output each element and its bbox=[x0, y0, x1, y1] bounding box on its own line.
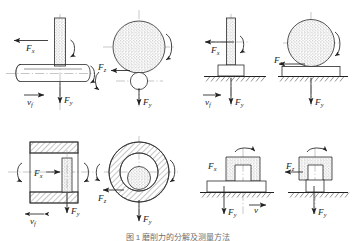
grinding-force-figure: Fx Fy vf Fz Fy bbox=[0, 0, 356, 241]
workpiece-block bbox=[306, 180, 324, 192]
figure-caption: 图 1 磨削力的分解及测量方法 bbox=[126, 232, 231, 241]
table-block bbox=[282, 67, 340, 77]
workpiece-block bbox=[207, 181, 266, 192]
grinding-wheel-circle bbox=[288, 20, 335, 67]
figure-root: Fx Fy vf Fz Fy bbox=[0, 0, 356, 241]
grinding-wheel-circle bbox=[113, 21, 165, 73]
workpiece-wall-bottom bbox=[30, 192, 78, 203]
grinding-wheel-circle bbox=[128, 167, 151, 190]
workpiece-block bbox=[218, 65, 244, 76]
workpiece-wall-top bbox=[30, 142, 78, 153]
workpiece-circle bbox=[130, 72, 147, 89]
grinding-wheel bbox=[227, 18, 236, 65]
grinding-wheel bbox=[55, 18, 66, 66]
